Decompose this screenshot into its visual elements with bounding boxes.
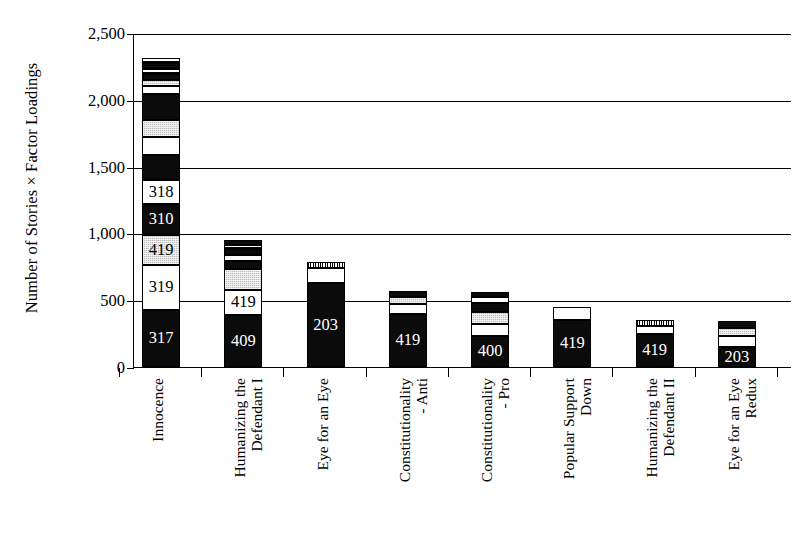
gridline	[134, 234, 791, 235]
x-axis-tick	[283, 368, 284, 377]
segment-value-label: 419	[642, 342, 667, 359]
bar-1-segment-15[interactable]	[142, 58, 180, 63]
bar-4[interactable]: 419	[389, 291, 427, 367]
bar-1-segment-4[interactable]: 310	[142, 204, 180, 235]
category-label-7: Humanizing theDefendant II	[643, 378, 665, 528]
bar-1-segment-8[interactable]	[142, 120, 180, 137]
bar-7[interactable]: 419	[636, 320, 674, 367]
y-axis-tick-label: 500	[100, 291, 125, 311]
bar-5-segment-2[interactable]	[471, 324, 509, 337]
segment-value-label: 419	[149, 242, 174, 259]
bar-5[interactable]: 400	[471, 292, 509, 367]
bar-2-segment-1[interactable]: 409	[224, 315, 262, 367]
bar-5-segment-3[interactable]	[471, 312, 509, 323]
bar-8-segment-3[interactable]	[718, 328, 756, 336]
category-label-line1: Constitutionality	[478, 378, 495, 482]
bar-1-segment-11[interactable]	[142, 80, 180, 87]
category-label-3: Eye for an Eye	[314, 378, 336, 528]
bar-2-segment-6[interactable]	[224, 249, 262, 255]
category-label-line2: Defendant I	[249, 378, 266, 528]
bar-6-segment-1[interactable]: 419	[553, 320, 591, 367]
segment-value-label: 319	[149, 279, 174, 296]
bar-8[interactable]: 203	[718, 321, 756, 367]
bar-3-segment-2[interactable]	[307, 268, 345, 283]
x-axis-category-labels: InnocenceHumanizing theDefendant IEye fo…	[133, 378, 791, 528]
category-label-line1: Popular Support	[560, 378, 577, 479]
bar-1-segment-2[interactable]: 319	[142, 265, 180, 309]
bar-4-segment-4[interactable]	[389, 291, 427, 297]
x-axis-tick	[612, 368, 613, 377]
bar-6[interactable]: 419	[553, 307, 591, 367]
segment-value-label: 310	[149, 211, 174, 228]
category-label-6: Popular SupportDown	[560, 378, 582, 528]
bar-1-segment-1[interactable]: 317	[142, 310, 180, 367]
bar-4-segment-3[interactable]	[389, 297, 427, 304]
bar-1-segment-13[interactable]	[142, 68, 180, 73]
bar-6-segment-2[interactable]	[553, 307, 591, 320]
bar-1[interactable]: 317319419310318	[142, 58, 180, 367]
x-axis-tick	[695, 368, 696, 377]
bar-1-segment-5[interactable]: 318	[142, 180, 180, 204]
bar-8-segment-1[interactable]: 203	[718, 347, 756, 367]
bar-7-segment-3[interactable]	[636, 320, 674, 325]
gridline	[134, 34, 791, 35]
x-axis-tick	[366, 368, 367, 377]
bar-3-segment-3[interactable]	[307, 262, 345, 268]
y-axis-tick-labels: 05001,0001,5002,0002,500	[55, 34, 125, 368]
category-label-line1: Constitutionality	[396, 378, 413, 482]
bar-3[interactable]: 203	[307, 262, 345, 367]
segment-value-label: 419	[395, 332, 420, 349]
bar-8-segment-2[interactable]	[718, 336, 756, 347]
category-label-8: Eye for an EyeRedux	[725, 378, 747, 528]
bar-4-segment-2[interactable]	[389, 304, 427, 313]
bar-1-segment-6[interactable]	[142, 155, 180, 180]
x-axis-tick	[448, 368, 449, 377]
bar-1-segment-10[interactable]	[142, 86, 180, 94]
bar-5-segment-5[interactable]	[471, 297, 509, 303]
category-label-line1: Humanizing the	[643, 378, 660, 477]
segment-value-label: 409	[231, 333, 256, 350]
y-axis-tick-label: 1,500	[88, 157, 125, 177]
bar-2[interactable]: 409419	[224, 240, 262, 367]
segment-value-label: 419	[231, 294, 256, 311]
bar-7-segment-2[interactable]	[636, 326, 674, 334]
bar-8-segment-4[interactable]	[718, 321, 756, 328]
bar-2-segment-7[interactable]	[224, 245, 262, 250]
category-label-line2: Defendant II	[660, 378, 677, 528]
bar-3-segment-1[interactable]: 203	[307, 283, 345, 367]
segment-value-label: 317	[149, 330, 174, 347]
y-axis-tick	[127, 301, 134, 302]
category-label-line1: Eye for an Eye	[314, 378, 331, 471]
bar-7-segment-1[interactable]: 419	[636, 334, 674, 367]
gridline	[134, 168, 791, 169]
plot-area: 317319419310318409419203419400419419203	[133, 34, 791, 368]
bar-5-segment-4[interactable]	[471, 303, 509, 312]
bar-1-segment-14[interactable]	[142, 63, 180, 68]
x-axis-tick	[119, 368, 120, 377]
category-label-line2: - Anti	[413, 378, 430, 528]
segment-value-label: 203	[724, 349, 749, 366]
bar-2-segment-2[interactable]: 419	[224, 290, 262, 315]
category-label-4: Constitutionality- Anti	[396, 378, 418, 528]
bar-1-segment-3[interactable]: 419	[142, 235, 180, 266]
x-axis-tick-marks	[133, 368, 791, 378]
bar-1-segment-12[interactable]	[142, 74, 180, 80]
bar-5-segment-6[interactable]	[471, 292, 509, 297]
segment-value-label: 318	[149, 184, 174, 201]
bar-2-segment-3[interactable]	[224, 269, 262, 290]
bar-2-segment-8[interactable]	[224, 240, 262, 245]
segment-value-label: 419	[560, 335, 585, 352]
x-axis-tick	[530, 368, 531, 377]
bar-2-segment-5[interactable]	[224, 255, 262, 261]
bar-2-segment-4[interactable]	[224, 261, 262, 268]
category-label-line2: - Pro	[495, 378, 512, 528]
y-axis-tick	[127, 34, 134, 35]
bar-1-segment-7[interactable]	[142, 137, 180, 154]
bar-5-segment-1[interactable]: 400	[471, 336, 509, 367]
gridline	[134, 101, 791, 102]
bar-1-segment-9[interactable]	[142, 94, 180, 119]
category-label-line2: Redux	[742, 378, 759, 528]
y-axis-tick-label: 2,000	[88, 90, 125, 110]
y-axis-title: Number of Stories × Factor Loadings	[22, 8, 42, 368]
bar-4-segment-1[interactable]: 419	[389, 314, 427, 367]
